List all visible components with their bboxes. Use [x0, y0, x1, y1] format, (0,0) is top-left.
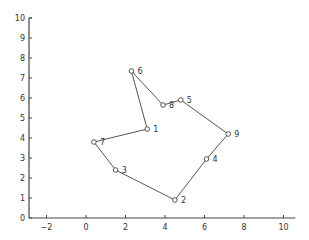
- chart: 012345678910−20246810123456789: [0, 0, 309, 240]
- data-point-label: 2: [181, 196, 186, 205]
- data-path: [94, 71, 228, 200]
- data-point-marker: [173, 198, 178, 203]
- data-point-marker: [129, 69, 134, 74]
- data-point-label: 1: [153, 125, 158, 134]
- y-tick-label: 1: [20, 194, 25, 203]
- x-tick-label: 6: [202, 223, 207, 232]
- data-point-marker: [113, 168, 118, 173]
- data-point-label: 6: [137, 67, 142, 76]
- y-tick-label: 6: [20, 94, 25, 103]
- data-point-marker: [161, 103, 166, 108]
- x-tick-label: 4: [162, 223, 167, 232]
- y-tick-label: 4: [20, 134, 25, 143]
- y-tick-label: 3: [20, 154, 25, 163]
- x-tick-label: 8: [241, 223, 246, 232]
- data-point-label: 3: [122, 166, 127, 175]
- x-tick-label: 2: [123, 223, 128, 232]
- y-tick-label: 9: [20, 34, 25, 43]
- data-point-label: 7: [100, 138, 105, 147]
- data-point-marker: [204, 157, 209, 162]
- y-tick-label: 10: [15, 14, 25, 23]
- x-tick-label: 0: [83, 223, 88, 232]
- x-tick-label: 10: [278, 223, 288, 232]
- data-point-marker: [179, 98, 184, 103]
- data-point-marker: [226, 132, 231, 137]
- y-tick-label: 8: [20, 54, 25, 63]
- y-tick-label: 7: [20, 74, 25, 83]
- data-point-marker: [92, 140, 97, 145]
- y-tick-label: 5: [20, 114, 25, 123]
- x-tick-label: −2: [41, 223, 53, 232]
- data-point-label: 5: [187, 96, 192, 105]
- y-tick-label: 2: [20, 174, 25, 183]
- y-tick-label: 0: [20, 214, 25, 223]
- data-point-label: 8: [169, 101, 174, 110]
- data-point-label: 9: [234, 130, 239, 139]
- data-point-marker: [145, 127, 150, 132]
- data-point-label: 4: [212, 155, 217, 164]
